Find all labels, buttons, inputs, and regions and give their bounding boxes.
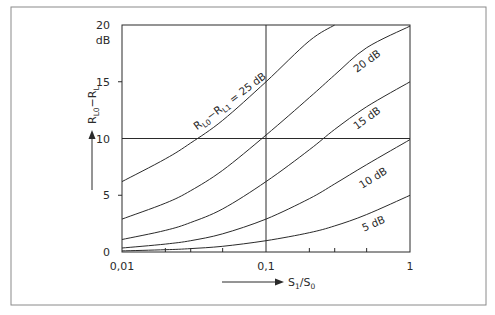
arrow-up-icon [89,130,96,139]
x-label-sub2: 0 [310,282,315,291]
y-axis-unit: dB [96,34,111,47]
y-label-sub1: L0 [92,107,101,116]
x-tick-label: 1 [407,260,414,273]
x-label-s1: S [288,276,295,289]
curve-label: 20 dB [351,47,383,75]
x-tick-label: 0,1 [257,260,275,273]
x-label-slash: /S [300,276,311,289]
x-axis-label: S1/S0 [222,276,315,291]
figure-frame [11,7,486,305]
y-tick-label: 0 [103,246,110,259]
curve-labels: RL0−RL1 = 25 dB20 dB15 dB10 dB5 dB [191,47,389,234]
svg-text:RL0−RL: RL0−RL [86,86,101,124]
y-label-r2: −R [86,90,99,107]
svg-text:S1/S0: S1/S0 [288,276,315,291]
x-tick-label: 0,01 [110,260,135,273]
y-tick-label: 10 [96,133,110,146]
curve-label: 10 dB [357,164,389,190]
y-tick-label: 5 [103,189,110,202]
curve-label: RL0−RL1 = 25 dB [191,70,270,135]
curve-label: 15 dB [351,104,383,132]
arrow-right-icon [275,279,284,286]
chart: 0,010,11 05101520 RL0−RL1 = 25 dB20 dB15… [0,0,495,315]
y-tick-label: 20 [96,19,110,32]
y-axis-ticks: 05101520 [96,19,122,259]
